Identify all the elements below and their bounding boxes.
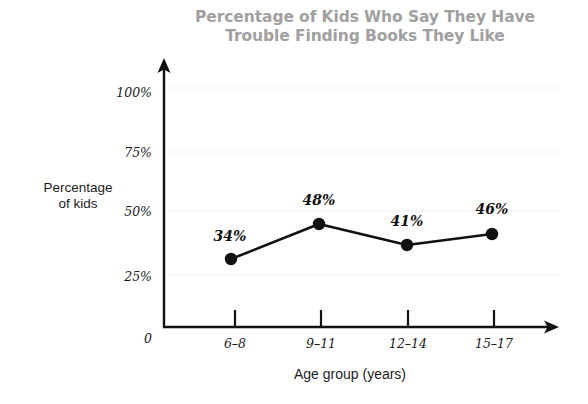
x-axis-label: Age group (years) — [200, 366, 500, 382]
data-label-6-8: 34% — [204, 228, 256, 244]
x-axis-ticks — [235, 310, 494, 327]
y-axis — [158, 58, 171, 327]
gridlines — [164, 88, 560, 275]
data-label-9-11: 48% — [293, 192, 345, 208]
y-tick-label-25: 25% — [100, 269, 152, 284]
x-axis — [164, 321, 559, 334]
chart-container: Percentage of Kids Who Say They Have Tro… — [0, 0, 588, 404]
data-label-15-17: 46% — [466, 201, 518, 217]
data-point — [401, 239, 413, 251]
data-point — [313, 218, 325, 230]
x-tick-label-9-11: 9–11 — [291, 336, 351, 351]
x-tick-label-15-17: 15–17 — [464, 336, 524, 351]
data-label-12-14: 41% — [381, 213, 433, 229]
y-tick-label-50: 50% — [100, 204, 152, 219]
x-tick-label-6-8: 6–8 — [205, 336, 265, 351]
data-point — [486, 228, 498, 240]
y-tick-label-75: 75% — [100, 145, 152, 160]
data-point — [225, 253, 237, 265]
x-tick-label-12-14: 12–14 — [378, 336, 438, 351]
data-points — [225, 218, 498, 265]
data-line — [231, 224, 492, 259]
y-tick-label-0: 0 — [100, 331, 152, 346]
y-tick-label-100: 100% — [100, 85, 152, 100]
